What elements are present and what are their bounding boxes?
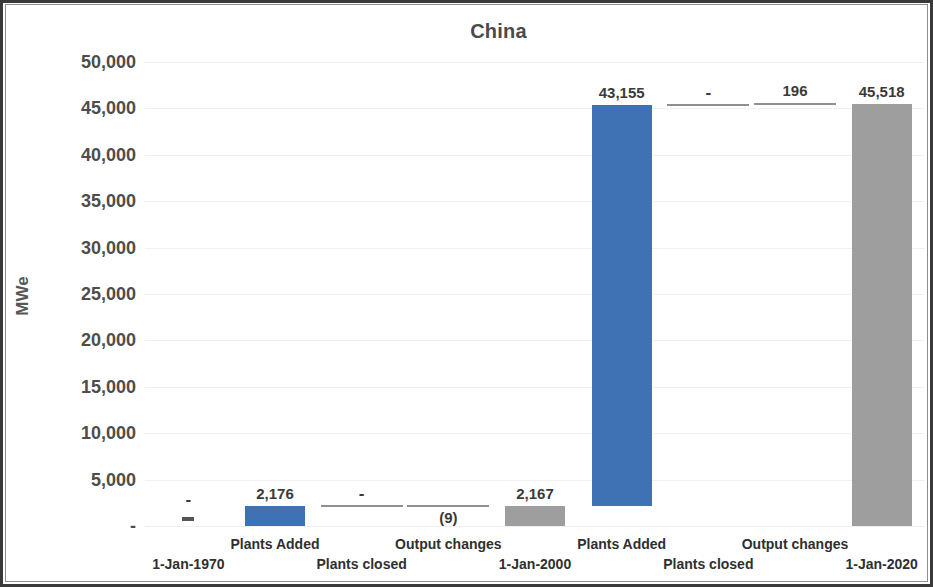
y-axis-tick-label: 20,000	[26, 330, 136, 351]
bar-1[interactable]	[182, 517, 194, 521]
x-axis-category-label: Plants closed	[317, 556, 407, 572]
plot-area: -2,176-(9)2,16743,155-19645,518	[145, 62, 925, 526]
y-axis-tick-label: -	[26, 516, 136, 537]
gridline	[145, 480, 925, 481]
bar-8[interactable]	[754, 103, 836, 105]
x-axis-category-label: 1-Jan-1970	[152, 556, 224, 572]
bar-value-label: -	[359, 484, 365, 504]
axis-baseline	[145, 526, 925, 527]
gridline	[145, 201, 925, 202]
y-axis-tick-label: 25,000	[26, 284, 136, 305]
x-axis-category-label: 1-Jan-2020	[845, 556, 917, 572]
bar-5[interactable]	[505, 506, 565, 526]
bar-value-label: 196	[782, 82, 807, 99]
bar-4[interactable]	[407, 505, 489, 507]
bar-value-label: 45,518	[859, 83, 905, 100]
y-axis-tick-label: 50,000	[26, 52, 136, 73]
bar-value-label: -	[705, 83, 711, 103]
gridline	[145, 62, 925, 63]
gridline	[145, 340, 925, 341]
chart-title-text: China	[470, 20, 527, 42]
x-axis-category-label: 1-Jan-2000	[499, 556, 571, 572]
chart-screenshot: China MWe 50,00045,00040,00035,00030,000…	[0, 0, 933, 587]
gridline	[145, 108, 925, 109]
y-axis-tick-label: 15,000	[26, 376, 136, 397]
y-axis-tick-label: 40,000	[26, 144, 136, 165]
y-axis-tick-label: 45,000	[26, 98, 136, 119]
y-axis-tick-labels: 50,00045,00040,00035,00030,00025,00020,0…	[18, 62, 136, 526]
bar-value-label: -	[185, 490, 191, 510]
bar-value-label: (9)	[439, 509, 457, 526]
y-axis-tick-label: 35,000	[26, 191, 136, 212]
bar-value-label: 2,176	[256, 485, 294, 502]
chart-title: China	[0, 20, 933, 43]
gridline	[145, 294, 925, 295]
bar-3[interactable]	[321, 505, 403, 507]
y-axis-tick-label: 10,000	[26, 423, 136, 444]
x-axis-category-label: Plants Added	[577, 536, 666, 552]
y-axis-tick-label: 30,000	[26, 237, 136, 258]
x-axis-category-label: Plants Added	[231, 536, 320, 552]
x-axis-category-label: Output changes	[742, 536, 849, 552]
bar-6[interactable]	[592, 105, 652, 505]
x-axis-category-label: Output changes	[395, 536, 502, 552]
gridline	[145, 248, 925, 249]
y-axis-tick-label: 5,000	[26, 469, 136, 490]
bar-2[interactable]	[245, 506, 305, 526]
bar-value-label: 2,167	[516, 485, 554, 502]
gridline	[145, 433, 925, 434]
x-axis-category-label: Plants closed	[663, 556, 753, 572]
bar-value-label: 43,155	[599, 84, 645, 101]
bar-7[interactable]	[667, 104, 749, 106]
gridline	[145, 387, 925, 388]
gridline	[145, 155, 925, 156]
bar-9[interactable]	[852, 104, 912, 526]
